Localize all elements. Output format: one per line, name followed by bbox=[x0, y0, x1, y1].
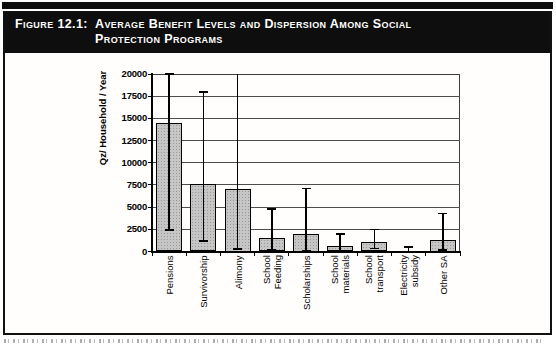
x-category-label: School transport bbox=[363, 255, 385, 333]
error-bar-line bbox=[374, 229, 376, 248]
x-category-label: Electricity subsidy bbox=[398, 255, 420, 333]
error-bar-cap-bottom bbox=[336, 250, 345, 252]
x-category-label: Scholarships bbox=[301, 255, 312, 333]
figure-title-bar: Figure 12.1: Average Benefit Levels and … bbox=[5, 13, 550, 53]
error-bar-cap-top bbox=[438, 213, 447, 215]
x-tick-mark bbox=[288, 252, 289, 256]
figure-title: Average Benefit Levels and Dispersion Am… bbox=[95, 17, 455, 47]
x-tick-mark bbox=[152, 252, 153, 256]
error-bar-line bbox=[305, 189, 307, 251]
gridline bbox=[152, 140, 460, 141]
x-tick-mark bbox=[357, 252, 358, 256]
error-bar-cap-bottom bbox=[267, 249, 276, 251]
error-bar-cap-bottom bbox=[404, 251, 413, 253]
gridline bbox=[152, 118, 460, 119]
error-bar-cap-top bbox=[199, 91, 208, 93]
x-category-label: School materials bbox=[329, 255, 351, 333]
x-category-label: School Feeding bbox=[261, 255, 283, 333]
error-bar-cap-bottom bbox=[370, 248, 379, 250]
figure-box: Figure 12.1: Average Benefit Levels and … bbox=[3, 11, 552, 335]
error-bar-cap-bottom bbox=[233, 248, 242, 250]
y-tick-label: 15000 bbox=[99, 112, 147, 123]
error-bar-cap-top bbox=[165, 73, 174, 75]
x-tick-mark bbox=[254, 252, 255, 256]
error-bar-cap-bottom bbox=[438, 249, 447, 251]
x-category-label: Other SA bbox=[437, 255, 448, 333]
gridline bbox=[152, 162, 460, 163]
x-tick-mark bbox=[186, 252, 187, 256]
gridline bbox=[152, 96, 460, 97]
x-tick-mark bbox=[425, 252, 426, 256]
figure-title-line2: Protection Programs bbox=[95, 32, 455, 47]
error-bar-line bbox=[442, 213, 444, 249]
error-bar-cap-bottom bbox=[302, 250, 311, 252]
y-tick-label: 12500 bbox=[99, 135, 147, 146]
x-category-label: Alimony bbox=[232, 255, 243, 333]
x-category-label: Pensions bbox=[164, 255, 175, 333]
error-bar-line bbox=[168, 74, 170, 230]
figure-title-line1: Average Benefit Levels and Dispersion Am… bbox=[95, 17, 455, 32]
error-bar-line bbox=[203, 92, 205, 241]
cropped-text-line bbox=[4, 339, 544, 343]
y-tick-label: 2500 bbox=[99, 223, 147, 234]
y-axis-line bbox=[151, 73, 153, 253]
error-bar-cap-top bbox=[267, 208, 276, 210]
x-tick-mark bbox=[323, 252, 324, 256]
y-tick-label: 0 bbox=[99, 246, 147, 257]
error-bar-cap-bottom bbox=[165, 229, 174, 231]
x-tick-mark bbox=[220, 252, 221, 256]
y-tick-label: 5000 bbox=[99, 201, 147, 212]
error-bar-line bbox=[339, 234, 341, 251]
bar-chart: Qz/ Household / Year 0250050007500100001… bbox=[5, 53, 550, 333]
top-rule bbox=[2, 2, 553, 9]
error-bar-cap-top bbox=[404, 246, 413, 248]
figure-label: Figure 12.1: bbox=[15, 17, 95, 32]
y-tick-label: 17500 bbox=[99, 90, 147, 101]
error-bar-cap-bottom bbox=[199, 240, 208, 242]
error-bar-line bbox=[271, 209, 273, 250]
x-category-label: Survivorship bbox=[198, 255, 209, 333]
error-bar-line bbox=[237, 74, 239, 249]
error-bar-cap-top bbox=[336, 233, 345, 235]
x-tick-mark bbox=[391, 252, 392, 256]
y-tick-label: 7500 bbox=[99, 179, 147, 190]
error-bar-cap-top bbox=[370, 229, 379, 231]
error-bar-cap-top bbox=[302, 188, 311, 190]
x-tick-mark bbox=[460, 252, 461, 256]
y-tick-label: 10000 bbox=[99, 157, 147, 168]
y-tick-label: 20000 bbox=[99, 68, 147, 79]
